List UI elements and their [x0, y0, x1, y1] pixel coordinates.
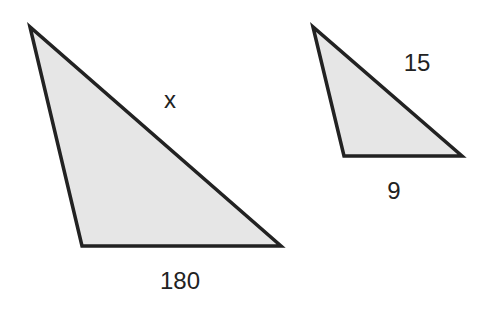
small-triangle [313, 27, 462, 156]
small-base-label: 9 [387, 179, 400, 203]
triangles-canvas [0, 0, 479, 311]
small-hypotenuse-label: 15 [404, 51, 431, 75]
similar-triangles-diagram: x 180 15 9 [0, 0, 479, 311]
large-base-label: 180 [160, 269, 200, 293]
large-triangle [30, 27, 281, 246]
large-hypotenuse-label: x [164, 88, 176, 112]
